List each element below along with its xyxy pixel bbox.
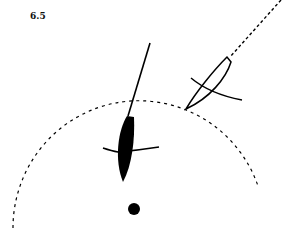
outline-boat-course-line	[230, 0, 281, 57]
diagram-canvas	[0, 0, 288, 240]
black-boat-hull	[118, 116, 134, 182]
outline-boat-hull	[186, 57, 231, 109]
black-boat-course-line	[128, 43, 150, 116]
mark-dot	[128, 203, 140, 215]
